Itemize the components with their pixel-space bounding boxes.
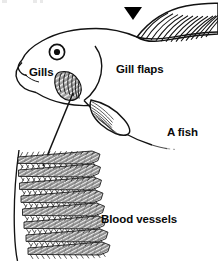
cropped-text-artifact — [40, 0, 43, 3]
cropped-text-artifact — [2, 0, 7, 3]
cropped-text-artifact — [33, 0, 37, 3]
label-gills: Gills — [29, 67, 53, 79]
label-blood-vessels: Blood vessels — [101, 214, 177, 226]
label-a-fish: A fish — [167, 127, 198, 139]
fish-eye — [49, 44, 64, 59]
fish-gill-anatomy-diagram: Gills Gill flaps A fish Blood vessels — [0, 0, 218, 261]
label-gill-flaps: Gill flaps — [116, 64, 164, 76]
